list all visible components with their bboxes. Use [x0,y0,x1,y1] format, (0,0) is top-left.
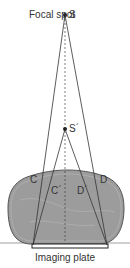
source-sprime-label: S´ [69,123,79,134]
source-s-label: S [69,9,76,20]
imaging-plate-label: Imaging plate [0,252,130,263]
point-cprime-label: C´ [51,185,62,196]
focal-spot-sprime-dot [63,127,67,131]
projection-geometry-diagram [0,0,130,268]
point-d-label: D [100,174,107,185]
focal-spot-label: Focal spot [29,9,59,20]
imaging-plate [32,244,108,248]
point-dprime-label: D´ [77,185,88,196]
point-c-label: C [30,174,37,185]
